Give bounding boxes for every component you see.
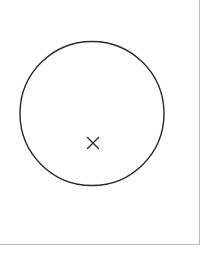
- cross-marker-icon: [88, 138, 99, 149]
- circle-shape: [20, 42, 164, 186]
- diagram-canvas: [0, 0, 199, 244]
- diagram-frame: [0, 0, 200, 245]
